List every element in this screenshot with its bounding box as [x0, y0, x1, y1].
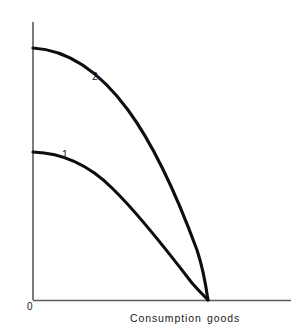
ppf-curve-inner	[33, 152, 208, 300]
chart-canvas	[0, 0, 291, 335]
curve-label-outer: 2	[92, 70, 98, 82]
curve-label-inner: 1	[62, 148, 68, 160]
origin-tick-label: 0	[27, 301, 33, 312]
ppf-chart-figure: 0 Consumption goods Capital goods 2 1	[0, 0, 291, 335]
ppf-curve-outer	[33, 48, 208, 300]
x-axis-label: Consumption goods	[130, 312, 240, 324]
